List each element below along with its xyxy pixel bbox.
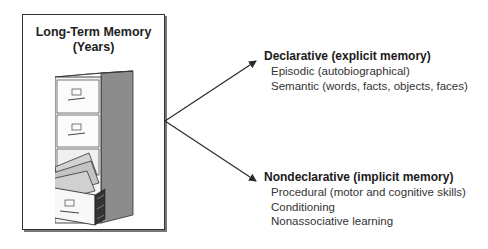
arrow-to-declarative (165, 61, 256, 121)
nonassociative-learning-item: Nonassociative learning (264, 214, 466, 229)
procedural-item: Procedural (motor and cognitive skills) (264, 185, 466, 200)
episodic-item: Episodic (autobiographical) (264, 64, 468, 79)
declarative-heading: Declarative (explicit memory) (264, 49, 468, 64)
conditioning-item: Conditioning (264, 200, 466, 215)
declarative-memory-group: Declarative (explicit memory) Episodic (… (264, 49, 468, 93)
nondeclarative-heading: Nondeclarative (implicit memory) (264, 170, 466, 185)
semantic-item: Semantic (words, facts, objects, faces) (264, 79, 468, 94)
nondeclarative-memory-group: Nondeclarative (implicit memory) Procedu… (264, 170, 466, 229)
arrow-to-nondeclarative (165, 121, 256, 181)
